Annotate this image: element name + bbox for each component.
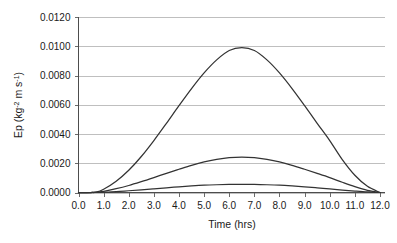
x-tick-label: 6.0 (222, 200, 236, 211)
x-tick-label: 3.0 (147, 200, 161, 211)
y-tick-label: 0.0100 (40, 41, 71, 52)
x-tick-label: 9.0 (298, 200, 312, 211)
x-tick-label: 2.0 (122, 200, 136, 211)
x-tick-label: 7.0 (247, 200, 261, 211)
x-tick-label: 8.0 (273, 200, 287, 211)
x-axis-title: Time (hrs) (208, 218, 255, 230)
y-tick-label: 0.0040 (40, 129, 71, 140)
x-tick-label: 1.0 (97, 200, 111, 211)
y-tick-label: 0.0020 (40, 158, 71, 169)
x-tick-label: 0.0 (72, 200, 86, 211)
chart-canvas: 0.01.02.03.04.05.06.07.08.09.010.011.012… (0, 0, 397, 243)
y-tick-label: 0.0060 (40, 99, 71, 110)
y-tick-label: 0.0000 (40, 187, 71, 198)
x-tick-label: 11.0 (345, 200, 364, 211)
x-tick-label: 5.0 (197, 200, 211, 211)
chart-figure: 0.01.02.03.04.05.06.07.08.09.010.011.012… (0, 0, 397, 243)
y-tick-label: 0.0120 (40, 12, 71, 23)
x-tick-label: 12.0 (370, 200, 390, 211)
y-tick-label: 0.0080 (40, 70, 71, 81)
x-tick-label: 4.0 (172, 200, 186, 211)
x-tick-label: 10.0 (320, 200, 340, 211)
